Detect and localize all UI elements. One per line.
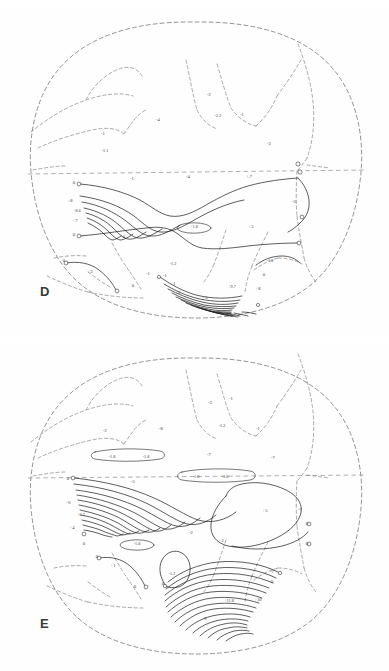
top-trim-d — [0, 0, 389, 9]
panel-d-canvas: -4-2-2.2-1-1-1.1-3-1-4+.70+8+8.6+70+1.8+… — [0, 0, 389, 336]
contour-label: 0 — [263, 272, 266, 277]
contour-label: +9.7 — [228, 284, 236, 289]
contour-label: -1.8 — [109, 454, 116, 459]
contour-label: -1.2 — [169, 571, 176, 576]
globe-limb-e — [30, 358, 361, 654]
contour-label: -1.1 — [102, 148, 109, 153]
contour-label: +3 — [219, 538, 225, 543]
contour-label: +5 — [249, 224, 255, 229]
contour-label: +9 — [202, 616, 208, 621]
contour-label: -2 — [189, 530, 194, 535]
contour-label: -3 — [292, 199, 297, 204]
contour-label: 0 — [134, 584, 137, 589]
contour-label: -5 — [131, 479, 136, 484]
isoline-right-d — [288, 178, 309, 232]
contour-label: +8 — [68, 198, 74, 203]
contour-label: +6 — [66, 500, 72, 505]
contour-label: -1 — [256, 426, 261, 431]
isoline-arc-lowerleft-e — [99, 557, 145, 586]
equator-line-d — [28, 170, 364, 174]
isoline-arc-right-d — [256, 256, 300, 265]
contour-labels-e: -3-1-2-8-1.2-1-1.8-1.8-7-70-5-1.8-1.8+6+… — [66, 396, 309, 621]
contour-label: +1.8 — [190, 224, 198, 229]
contour-label: +4 — [70, 525, 76, 530]
contour-label: 0 — [132, 283, 135, 288]
contour-label: -7 — [271, 455, 276, 460]
contour-label: +10 — [254, 597, 262, 602]
contour-label: +11.8 — [224, 598, 234, 603]
contour-label: -1 — [229, 396, 234, 401]
contour-label: -1 — [101, 131, 106, 136]
contour-label: -1 — [163, 273, 168, 278]
coastlines-e — [31, 354, 330, 608]
contour-label: -1.8 — [222, 474, 229, 479]
contour-label: 0 — [83, 541, 86, 546]
contour-label: +8 — [256, 286, 262, 291]
contour-label: +5 — [203, 295, 209, 300]
contour-label: +3 — [88, 269, 94, 274]
contour-label: -7 — [298, 507, 303, 512]
contour-label: -3 — [267, 141, 272, 146]
panel-d: -4-2-2.2-1-1-1.1-3-1-4+.70+8+8.6+70+1.8+… — [0, 0, 389, 336]
contour-label: -7 — [207, 452, 212, 457]
contour-label: +1 — [111, 563, 117, 568]
contour-label: -1.8 — [267, 258, 274, 263]
contour-label: 0 — [73, 180, 76, 185]
contour-label: -1.8 — [193, 474, 200, 479]
contour-label: +2 — [176, 290, 182, 295]
contour-label: -4 — [156, 117, 161, 122]
contour-label: -1 — [240, 112, 245, 117]
contour-label: -8 — [159, 426, 164, 431]
contour-label: -1.2 — [219, 423, 226, 428]
panel-letter-d: D — [40, 284, 50, 299]
contour-label: -4 — [186, 174, 191, 179]
panel-letter-e: E — [40, 616, 49, 631]
contour-label: +.7 — [246, 174, 253, 179]
contour-label: 0 — [73, 232, 76, 237]
contour-label: +8.6 — [73, 208, 81, 213]
contour-label: -1.2 — [170, 261, 177, 266]
contour-label: -1.8 — [143, 454, 150, 459]
contour-label: -1 — [146, 271, 151, 276]
contour-label: -1 — [130, 176, 135, 181]
terminator-nodes-d — [64, 162, 304, 307]
contour-label: +1 — [171, 281, 177, 286]
contour-label: 0 — [67, 476, 70, 481]
isoline-ovals-upper-e — [91, 449, 164, 461]
contour-label: +5 — [263, 508, 269, 513]
panel-e-canvas: -3-1-2-8-1.2-1-1.8-1.8-7-70-5-1.8-1.8+6+… — [0, 336, 389, 671]
contour-label: +6.7 — [77, 512, 85, 517]
contour-label: +7 — [73, 218, 79, 223]
contour-label: -3 — [208, 400, 213, 405]
contour-label: -2.2 — [215, 113, 222, 118]
panel-e: -3-1-2-8-1.2-1-1.8-1.8-7-70-5-1.8-1.8+6+… — [0, 336, 389, 671]
globe-limb-d — [30, 22, 361, 318]
top-trim-e — [0, 336, 389, 345]
isoline-ovals-equator-e — [178, 469, 256, 482]
contour-label: -2 — [103, 428, 108, 433]
contour-label: -1.8 — [134, 541, 141, 546]
contour-label: -2 — [207, 92, 212, 97]
figure-root: -4-2-2.2-1-1-1.1-3-1-4+.70+8+8.6+70+1.8+… — [0, 0, 389, 671]
isoline-bundle-left-e — [74, 478, 236, 537]
contour-label: 0 — [271, 579, 274, 584]
isoline-closed-right-e — [211, 483, 308, 549]
